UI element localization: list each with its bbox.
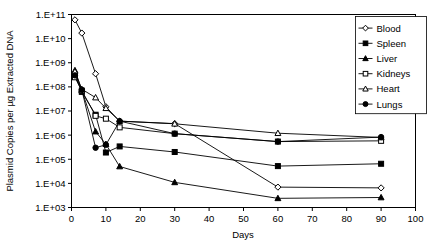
data-point-marker bbox=[117, 125, 122, 130]
data-point-marker bbox=[79, 87, 84, 92]
data-point-marker bbox=[363, 71, 368, 76]
data-point-marker bbox=[103, 116, 108, 121]
x-tick-label: 40 bbox=[204, 213, 215, 224]
y-axis-title: Plasmid Copies per µg Extracted DNA bbox=[4, 30, 15, 192]
y-tick-label: 1.E+09 bbox=[35, 57, 65, 68]
data-point-marker bbox=[378, 134, 383, 139]
x-tick-label: 80 bbox=[341, 213, 352, 224]
data-point-marker bbox=[172, 131, 177, 136]
x-tick-label: 60 bbox=[273, 213, 284, 224]
plasmid-copies-line-chart: Plasmid Copies per µg Extracted DNA 1.E+… bbox=[0, 0, 430, 250]
y-tick-label: 1.E+03 bbox=[35, 202, 65, 213]
chart-legend: BloodSpleenLiverKidneysHeartLungs bbox=[356, 17, 427, 114]
legend-label: Kidneys bbox=[377, 68, 411, 79]
x-tick-label: 30 bbox=[169, 213, 180, 224]
x-tick-label: 70 bbox=[307, 213, 318, 224]
legend-label: Spleen bbox=[377, 38, 407, 49]
x-tick-label: 50 bbox=[238, 213, 249, 224]
data-point-marker bbox=[379, 161, 384, 166]
x-tick-label: 100 bbox=[408, 213, 424, 224]
data-point-marker bbox=[275, 164, 280, 169]
data-point-marker bbox=[117, 144, 122, 149]
y-tick-label: 1.E+07 bbox=[35, 105, 65, 116]
y-tick-label: 1.E+05 bbox=[35, 154, 65, 165]
x-tick-label: 0 bbox=[69, 213, 74, 224]
legend-label: Lungs bbox=[377, 99, 403, 110]
y-tick-label: 1.E+04 bbox=[35, 178, 65, 189]
y-tick-label: 1.E+08 bbox=[35, 81, 65, 92]
data-point-marker bbox=[93, 113, 98, 118]
data-point-marker bbox=[117, 118, 122, 123]
legend-label: Liver bbox=[377, 53, 398, 64]
x-axis-title: Days bbox=[232, 229, 254, 240]
data-point-marker bbox=[72, 73, 77, 78]
data-point-marker bbox=[363, 41, 368, 46]
data-point-marker bbox=[103, 150, 108, 155]
data-point-marker bbox=[103, 142, 108, 147]
y-tick-label: 1.E+11 bbox=[36, 9, 66, 20]
chart-figure: Plasmid Copies per µg Extracted DNA 1.E+… bbox=[0, 0, 430, 250]
x-tick-label: 10 bbox=[101, 213, 112, 224]
x-tick-label: 90 bbox=[376, 213, 387, 224]
data-point-marker bbox=[363, 102, 368, 107]
legend-label: Heart bbox=[377, 83, 401, 94]
data-point-marker bbox=[172, 149, 177, 154]
x-tick-label: 20 bbox=[135, 213, 146, 224]
legend-label: Blood bbox=[377, 23, 401, 34]
data-point-marker bbox=[275, 139, 280, 144]
y-tick-label: 1.E+06 bbox=[35, 130, 65, 141]
y-tick-label: 1.E+10 bbox=[35, 33, 65, 44]
data-point-marker bbox=[93, 145, 98, 150]
